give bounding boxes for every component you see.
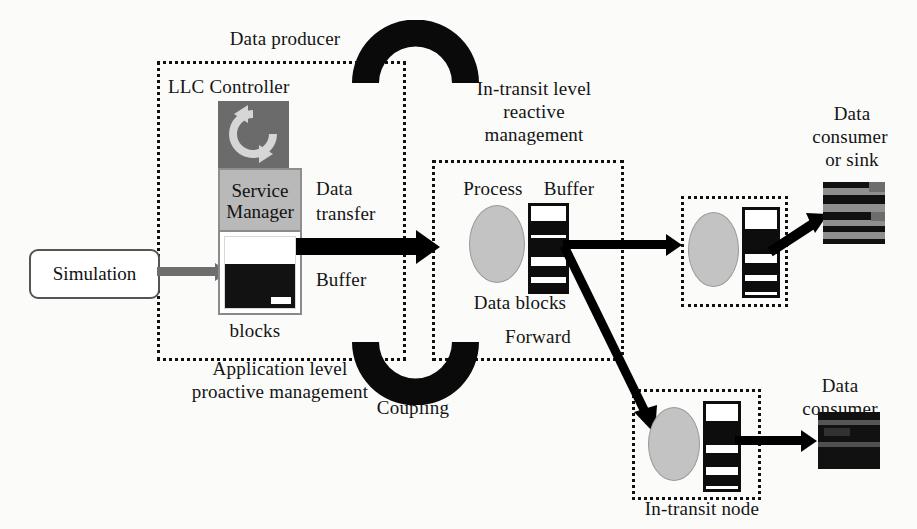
label-data-consumer-or-sink-line2: consumer bbox=[785, 126, 915, 148]
tile-stripe bbox=[818, 420, 880, 425]
label-data-consumer-or-sink-line1: Data bbox=[797, 103, 907, 125]
simulation-to-producer-arrow bbox=[157, 267, 216, 276]
buffer-band bbox=[706, 475, 738, 485]
tile-block bbox=[871, 212, 885, 221]
coupling-arc-bottom-icon bbox=[346, 342, 485, 405]
simulation-label: Simulation bbox=[53, 263, 136, 285]
buffer-band bbox=[745, 281, 777, 291]
buffer-band bbox=[531, 221, 566, 235]
label-data-transfer-line2: transfer bbox=[316, 203, 416, 225]
service-manager-box[interactable]: Service Manager bbox=[218, 168, 302, 234]
tile-block bbox=[869, 182, 885, 192]
process-circle-bottom-right bbox=[648, 407, 700, 481]
tile-stripe bbox=[818, 442, 880, 447]
label-transit-buffer: Buffer bbox=[529, 178, 609, 200]
data-transfer-arrow bbox=[296, 238, 418, 255]
tile-stripe bbox=[823, 232, 885, 239]
buffer-band bbox=[531, 266, 566, 278]
buffer-band bbox=[531, 238, 566, 257]
buffer-band bbox=[706, 453, 738, 467]
buffer-band bbox=[745, 229, 777, 255]
label-llc-controller: LLC Controller bbox=[168, 76, 348, 98]
label-in-transit-level-line3: management bbox=[444, 124, 624, 146]
label-data-transfer-line1: Data bbox=[316, 178, 396, 200]
label-process: Process bbox=[446, 178, 540, 200]
label-data-consumer-line1: Data bbox=[785, 375, 895, 397]
data-consumer-tile bbox=[818, 412, 880, 469]
simulation-box[interactable]: Simulation bbox=[29, 249, 160, 299]
label-data-consumer-or-sink-line3: or sink bbox=[797, 149, 907, 171]
producer-buffer bbox=[218, 230, 302, 315]
label-data-producer: Data producer bbox=[200, 28, 370, 50]
buffer-band bbox=[531, 283, 566, 292]
buffer-band bbox=[706, 421, 738, 445]
label-forward: Forward bbox=[478, 326, 598, 348]
buffer-top-right bbox=[742, 207, 780, 298]
coupling-arc-top-icon bbox=[346, 20, 485, 83]
tile-stripe bbox=[823, 204, 885, 212]
forward-arrow-top bbox=[563, 240, 668, 249]
label-in-transit-level-line2: reactive bbox=[444, 101, 624, 123]
process-circle-center bbox=[469, 205, 525, 283]
diagram-canvas: Data producer LLC Controller Data transf… bbox=[0, 0, 917, 529]
label-producer-data-blocks-line2: blocks bbox=[205, 320, 305, 342]
consumer-arrow-bottom bbox=[735, 436, 803, 445]
buffer-bottom-right bbox=[703, 401, 741, 492]
tile-block bbox=[824, 428, 850, 436]
service-manager-line1: Service bbox=[232, 180, 289, 201]
refresh-cycle-icon bbox=[218, 101, 289, 168]
producer-buffer-notch bbox=[271, 297, 291, 304]
process-circle-top-right bbox=[688, 212, 739, 287]
label-transit-data-blocks: Data blocks bbox=[455, 292, 585, 314]
label-in-transit-node: In-transit node bbox=[622, 498, 782, 520]
service-manager-line2: Manager bbox=[226, 201, 294, 222]
producer-buffer-inner bbox=[224, 236, 296, 309]
label-producer-buffer: Buffer bbox=[316, 269, 406, 291]
buffer-band bbox=[745, 263, 777, 275]
data-consumer-or-sink-tile bbox=[823, 182, 885, 244]
